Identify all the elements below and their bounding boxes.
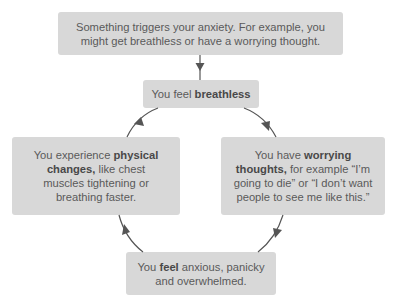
arrow-physical-to-breathless	[127, 108, 158, 137]
worrying-thoughts-node: You have worrying thoughts, for example …	[221, 137, 385, 215]
arrow-breathless-to-worrying	[244, 108, 276, 137]
anxious-text: You feel anxious, panicky and overwhelme…	[132, 260, 270, 288]
physical-prefix: You experience	[34, 149, 114, 161]
arrow-worrying-to-anxious	[258, 215, 283, 252]
trigger-node: Something triggers your anxiety. For exa…	[58, 12, 343, 55]
anxious-prefix: You	[137, 261, 159, 273]
physical-changes-node: You experience physical changes, like ch…	[12, 137, 180, 215]
breathless-bold: breathless	[195, 88, 251, 100]
trigger-text: Something triggers your anxiety. For exa…	[76, 20, 325, 48]
breathless-prefix: You feel	[151, 88, 194, 100]
arrow-anxious-to-physical	[119, 215, 143, 252]
arrow-trigger-to-breathless	[196, 55, 205, 80]
worrying-prefix: You have	[255, 149, 304, 161]
trigger-line-1: Something triggers your anxiety. For exa…	[76, 21, 325, 33]
breathless-node: You feel breathless	[143, 80, 259, 108]
anxious-bold: feel	[159, 261, 178, 273]
trigger-line-2: might get breathless or have a worrying …	[81, 35, 320, 47]
physical-changes-text: You experience physical changes, like ch…	[28, 148, 164, 204]
anxious-node: You feel anxious, panicky and overwhelme…	[126, 252, 276, 295]
breathless-text: You feel breathless	[151, 87, 250, 101]
worrying-thoughts-text: You have worrying thoughts, for example …	[229, 148, 377, 204]
